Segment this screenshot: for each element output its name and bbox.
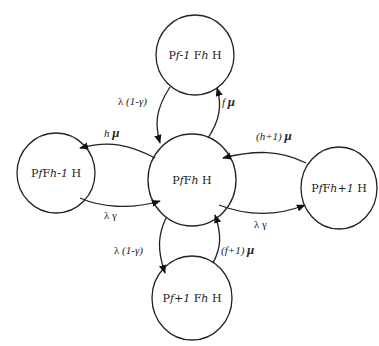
edge-left-to-center (80, 198, 160, 206)
edge-label-bottom-to-center: (f+1) μ (221, 242, 254, 257)
node-top: Pf-1 Fh H (156, 15, 234, 95)
edge-label-center-to-top: f μ (222, 94, 235, 109)
node-right-label: PfFh+1 H (311, 182, 367, 195)
node-right: PfFh+1 H (301, 147, 377, 229)
edge-label-center-to-bottom: λ (1-γ) (114, 244, 143, 257)
node-center: PfFh H (148, 134, 236, 226)
node-top-label: Pf-1 Fh H (168, 49, 221, 62)
edge-bottom-to-center (213, 215, 220, 263)
edge-center-to-right (219, 205, 305, 213)
edge-center-to-bottom (159, 218, 166, 273)
edge-right-to-center (223, 153, 306, 163)
edge-label-center-to-right: λ γ (254, 218, 267, 230)
edge-top-to-center (157, 87, 170, 143)
edge-center-to-top (208, 88, 220, 138)
edge-label-top-to-center: λ (1-γ) (118, 95, 147, 108)
node-left: PfFh-1 H (17, 133, 95, 213)
state-diagram: Pf-1 Fh H PfFh-1 H PfFh H PfFh+1 H Pf+1 … (0, 0, 379, 346)
node-center-label: PfFh H (172, 174, 211, 187)
edge-label-center-to-left: h μ (104, 125, 119, 140)
edge-label-right-to-center: (h+1) μ (256, 128, 292, 143)
edge-label-left-to-center: λ γ (104, 209, 117, 221)
node-bottom-label: Pf+1 Fh H (162, 292, 221, 305)
node-left-label: PfFh-1 H (31, 167, 81, 180)
